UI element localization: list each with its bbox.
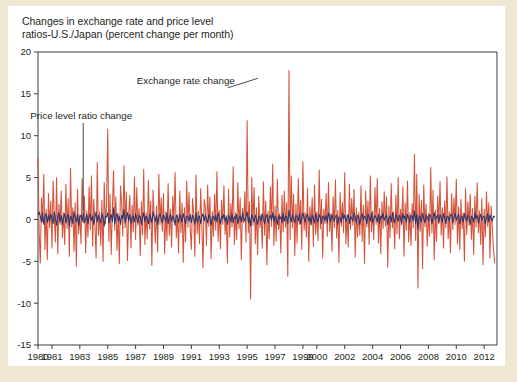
y-tick-label: -10: [17, 298, 31, 309]
x-tick-label: 1983: [69, 351, 90, 362]
chart-plot-area: 20151050-5-10-15 19801981198319851987198…: [8, 6, 505, 366]
y-tick-label: -15: [17, 339, 31, 350]
x-tick-label: 1989: [153, 351, 174, 362]
x-tick-label: 2012: [474, 351, 495, 362]
y-tick-label: 10: [20, 130, 31, 141]
y-axis-ticks: 20151050-5-10-15: [17, 46, 38, 350]
series-exchange-rate: [38, 70, 495, 299]
x-tick-label: 1991: [181, 351, 202, 362]
y-tick-label: 20: [20, 46, 31, 57]
y-tick-label: 15: [20, 88, 31, 99]
x-tick-label: 2002: [334, 351, 355, 362]
x-tick-label: 1981: [41, 351, 62, 362]
y-tick-label: 5: [26, 172, 31, 183]
x-tick-label: 2004: [362, 351, 383, 362]
figure-root: Changes in exchange rate and price level…: [0, 0, 517, 382]
price-level-annotation: Price level ratio change: [30, 110, 132, 121]
x-tick-label: 2010: [446, 351, 467, 362]
x-tick-label: 2000: [306, 351, 327, 362]
x-tick-label: 1987: [125, 351, 146, 362]
x-tick-label: 1985: [97, 351, 118, 362]
x-tick-label: 1997: [264, 351, 285, 362]
chart-card: Changes in exchange rate and price level…: [8, 6, 505, 366]
x-tick-label: 1995: [237, 351, 258, 362]
x-tick-label: 2008: [418, 351, 439, 362]
x-tick-label: 1993: [209, 351, 230, 362]
x-axis-ticks: 1980198119831985198719891991199319951997…: [27, 345, 494, 362]
x-tick-label: 2006: [390, 351, 411, 362]
y-tick-label: 0: [26, 214, 31, 225]
exchange-rate-annotation: Exchange rate change: [137, 75, 236, 86]
y-tick-label: -5: [23, 256, 31, 267]
